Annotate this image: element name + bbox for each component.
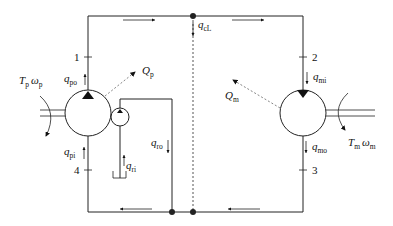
port-label-2: 2: [312, 51, 318, 63]
port-label-3: 3: [312, 164, 318, 176]
label-T-omega-p: Tpωp: [19, 74, 43, 89]
pump-symbol: [40, 90, 111, 136]
circuit-svg: 1 2 3 4 qcL Qp Tpωp qpo qpi qri qro: [0, 0, 393, 226]
label-T-omega-m: Tmωm: [348, 136, 376, 151]
label-q-po: qpo: [64, 72, 77, 87]
junction-node-bottom-right: [190, 209, 196, 215]
pump-heat-arrow: [105, 72, 135, 96]
label-q-pi: qpi: [64, 145, 75, 160]
motor-rotation-arrow-icon: [338, 93, 348, 130]
port-label-4: 4: [74, 164, 80, 176]
label-q-cL: qcL: [198, 18, 212, 33]
charge-pump-symbol: [111, 99, 172, 212]
label-Q-m: Qm: [225, 89, 239, 104]
label-q-ri: qri: [126, 159, 136, 174]
motor-symbol: [280, 90, 375, 136]
hydraulic-circuit-diagram: 1 2 3 4 qcL Qp Tpωp qpo qpi qri qro: [0, 0, 393, 226]
label-q-ro: qro: [151, 136, 163, 151]
label-Q-p: Qp: [142, 64, 154, 79]
high-pressure-line: [88, 16, 303, 90]
port-label-1: 1: [74, 51, 80, 63]
junction-node-top: [190, 13, 196, 19]
label-q-mo: qmo: [312, 140, 327, 155]
label-q-mi: qmi: [313, 70, 326, 85]
motor-heat-arrow: [233, 80, 280, 108]
